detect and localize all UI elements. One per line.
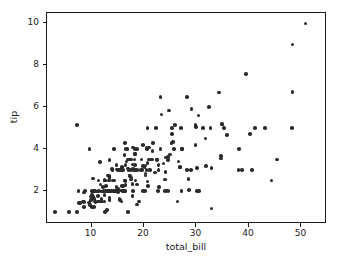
scatter-point [207, 105, 211, 109]
scatter-point [106, 189, 110, 193]
y-tick-mark [43, 64, 47, 65]
scatter-point [253, 126, 257, 130]
scatter-point [98, 200, 102, 204]
x-tick-label: 20 [137, 228, 148, 239]
scatter-point [148, 168, 152, 172]
scatter-point [103, 210, 107, 214]
scatter-point [291, 90, 295, 94]
y-tick-mark [43, 148, 47, 149]
scatter-point [146, 180, 150, 184]
scatter-point [134, 179, 138, 183]
scatter-point [90, 205, 94, 209]
scatter-point [195, 166, 199, 170]
scatter-point [179, 126, 183, 130]
scatter-point [187, 188, 191, 192]
y-tick-mark [43, 190, 47, 191]
scatter-point [122, 189, 126, 193]
scatter-point [163, 178, 167, 182]
scatter-point [189, 168, 193, 172]
x-tick-mark [300, 223, 301, 227]
scatter-point [164, 170, 168, 174]
scatter-point [159, 95, 163, 99]
scatter-point [176, 200, 180, 204]
scatter-point [111, 168, 115, 172]
scatter-point [146, 126, 150, 130]
scatter-point [220, 123, 224, 127]
scatter-point [270, 179, 274, 183]
scatter-point [263, 126, 267, 130]
scatter-point [195, 189, 199, 193]
y-tick-label: 6 [33, 101, 39, 112]
scatter-point [107, 179, 111, 183]
scatter-point [108, 198, 112, 202]
scatter-point [126, 210, 130, 214]
scatter-point [217, 91, 221, 95]
scatter-point [225, 133, 229, 137]
scatter-point [115, 163, 119, 167]
scatter-point [101, 185, 105, 189]
scatter-point [170, 141, 174, 145]
scatter-point [82, 191, 86, 195]
scatter-point [304, 22, 308, 26]
scatter-point [248, 132, 252, 136]
x-tick-mark [195, 223, 196, 227]
scatter-point [108, 158, 112, 162]
scatter-point [155, 158, 159, 162]
scatter-point [78, 201, 82, 205]
scatter-point [154, 126, 158, 130]
scatter-point [160, 113, 164, 117]
scatter-point [133, 152, 137, 156]
scatter-point [139, 168, 143, 172]
scatter-point [147, 158, 151, 162]
scatter-point [104, 184, 108, 188]
x-tick-label: 50 [295, 228, 306, 239]
y-tick-label: 2 [33, 185, 39, 196]
x-tick-label: 10 [85, 228, 96, 239]
x-tick-label: 40 [242, 228, 253, 239]
scatter-point [157, 168, 161, 172]
scatter-point [244, 72, 248, 76]
scatter-point [140, 158, 144, 162]
scatter-point [222, 126, 226, 130]
scatter-point [133, 158, 137, 162]
scatter-point [145, 168, 149, 172]
scatter-point [53, 210, 57, 214]
scatter-point [135, 183, 139, 187]
scatter-point [97, 179, 101, 183]
scatter-point [190, 107, 194, 111]
scatter-point [103, 200, 107, 204]
scatter-point [146, 184, 150, 188]
scatter-point [82, 205, 86, 209]
scatter-point [77, 189, 81, 193]
scatter-point [275, 158, 279, 162]
scatter-point [291, 43, 295, 47]
scatter-point [88, 147, 92, 151]
scatter-point [131, 194, 135, 198]
scatter-point [120, 200, 124, 204]
scatter-point [187, 177, 191, 181]
matplotlib-figure: 1020304050 246810 total_bill tip [0, 0, 344, 269]
scatter-point [172, 147, 176, 151]
scatter-point [141, 189, 145, 193]
scatter-point [180, 189, 184, 193]
scatter-point [141, 143, 145, 147]
scatter-point [250, 168, 254, 172]
scatter-point [237, 147, 241, 151]
scatter-point [97, 189, 101, 193]
scatter-point [170, 132, 174, 136]
scatter-point [124, 147, 128, 151]
scatter-point [150, 158, 154, 162]
y-tick-label: 4 [33, 143, 39, 154]
y-tick-label: 8 [33, 59, 39, 70]
scatter-point [163, 189, 167, 193]
scatter-point [133, 163, 137, 167]
scatter-point [90, 189, 94, 193]
scatter-point [151, 141, 155, 145]
scatter-point [135, 203, 139, 207]
scatter-point [209, 126, 213, 130]
scatter-point [185, 168, 189, 172]
scatter-point [168, 153, 172, 157]
scatter-point [157, 163, 161, 167]
scatter-point [167, 109, 171, 113]
scatter-point [194, 143, 198, 147]
